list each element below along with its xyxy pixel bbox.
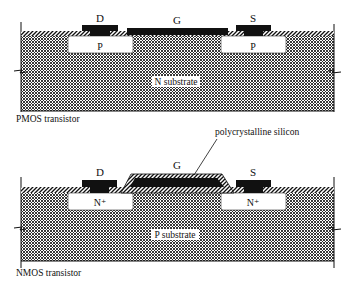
p-label-right: P <box>250 41 256 52</box>
p-label-left: P <box>97 41 103 52</box>
n-plus-label-left: N⁺ <box>94 197 107 208</box>
gate-label: G <box>173 159 181 171</box>
source-contact <box>236 180 271 187</box>
callout-leader-line <box>194 139 217 175</box>
substrate-label: N substrate <box>154 77 197 87</box>
nmos-diagram: polycrystalline silicon D G S N⁺ N⁺ P su… <box>14 127 341 278</box>
pmos-diagram: D G S P P N substrate PMOS transistor <box>14 12 341 124</box>
polysilicon-gate <box>130 178 224 187</box>
gate-label: G <box>173 14 181 26</box>
polysilicon-callout: polycrystalline silicon <box>215 127 299 137</box>
drain-contact <box>82 25 118 31</box>
drain-label: D <box>96 12 104 24</box>
drain-contact <box>82 180 117 187</box>
n-plus-label-right: N⁺ <box>247 197 260 208</box>
source-label: S <box>250 12 256 24</box>
drain-label: D <box>96 166 104 178</box>
figure-caption: PMOS transistor <box>16 114 80 124</box>
source-contact <box>236 25 271 31</box>
gate-metal <box>127 28 228 35</box>
figure-caption: NMOS transistor <box>16 268 82 278</box>
mos-transistor-diagram: D G S P P N substrate PMOS transistor <box>0 0 355 286</box>
source-label: S <box>250 166 256 178</box>
substrate-label: P substrate <box>154 230 195 240</box>
